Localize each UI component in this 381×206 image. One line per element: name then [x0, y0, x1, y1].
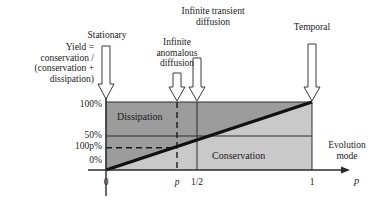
x-tick-label-half: 1/2	[183, 177, 211, 188]
callout-arrow-temporal-icon	[304, 44, 320, 101]
y-axis-caption-line-1: Yield =	[2, 42, 94, 53]
evolution-mode-yield-diagram: Yield = conservation / (conservation + d…	[0, 0, 381, 206]
y-axis-caption-line-3: (conservation +	[2, 63, 94, 74]
callout-label-stationary: Stationary	[76, 30, 138, 41]
x-axis-label: p	[354, 175, 359, 187]
y-tick-label-50-percent: 50%	[50, 130, 102, 141]
callout-label-infinite-transient-diffusion: Infinite transient diffusion	[160, 6, 266, 27]
callout-label-infinite-anomalous-diffusion-line-2: anomalous	[145, 48, 209, 59]
y-tick-label-100p-percent-text: 100p%	[75, 141, 102, 151]
conservation-region-label: Conservation	[212, 150, 265, 161]
evolution-mode-label-line-1: Evolution	[318, 140, 376, 151]
callout-label-infinite-transient-diffusion-line-1: Infinite transient	[160, 6, 266, 17]
callout-arrow-infinite-anomalous-diffusion-icon	[169, 73, 185, 101]
x-tick-label-zero: 0	[96, 177, 116, 188]
callout-label-temporal: Temporal	[282, 22, 342, 33]
callout-arrow-stationary-icon	[98, 46, 114, 99]
dissipation-region-label: Dissipation	[117, 111, 163, 122]
y-axis-caption-line-4: dissipation)	[2, 74, 94, 85]
y-tick-label-0-percent: 0%	[50, 155, 102, 166]
callout-label-infinite-transient-diffusion-line-2: diffusion	[160, 17, 266, 28]
callout-label-infinite-anomalous-diffusion: Infinite anomalous diffusion	[145, 37, 209, 69]
x-tick-label-one: 1	[302, 177, 322, 188]
x-axis-arrowhead-icon	[341, 167, 350, 174]
y-tick-label-100-percent: 100%	[50, 99, 102, 110]
evolution-mode-label-line-2: mode	[318, 151, 376, 162]
y-tick-label-100p-percent: 100p%	[50, 141, 102, 152]
callout-label-infinite-anomalous-diffusion-line-3: diffusion	[145, 58, 209, 69]
callout-label-infinite-anomalous-diffusion-line-1: Infinite	[145, 37, 209, 48]
evolution-mode-label: Evolution mode	[318, 140, 376, 161]
y-axis-caption-line-2: conservation /	[2, 53, 94, 64]
y-axis-caption: Yield = conservation / (conservation + d…	[2, 42, 94, 85]
